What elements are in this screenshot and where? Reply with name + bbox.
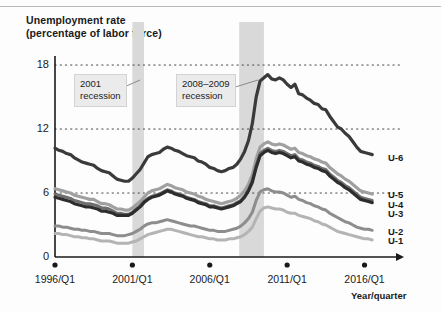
x-tick-dot (207, 262, 212, 267)
x-tick-label-1996/Q1: 1996/Q1 (20, 273, 90, 285)
series-line-u-3 (55, 150, 372, 215)
recession-band-recession-2008-2009 (239, 22, 264, 257)
y-tick-label-18: 18 (27, 58, 49, 70)
annotation-recession-2001: 2001 recession (74, 74, 127, 107)
x-tick-dot (52, 262, 57, 267)
x-tick-dot (362, 262, 367, 267)
x-tick-dot (285, 262, 290, 267)
series-label-u-6: U-6 (388, 152, 403, 163)
annotation-recession-2008-2009: 2008–2009 recession (176, 74, 236, 107)
annotation-line-1: 2008–2009 (182, 78, 230, 90)
series-label-u-1: U-1 (388, 235, 403, 246)
x-tick-label-2016/Q1: 2016/Q1 (330, 273, 400, 285)
y-tick-label-6: 6 (27, 186, 49, 198)
series-label-u-3: U-3 (388, 208, 403, 219)
annotation-line-1: 2001 (80, 78, 121, 90)
x-tick-label-2001/Q1: 2001/Q1 (97, 273, 167, 285)
plot-area (0, 0, 441, 312)
unemployment-rate-chart: Unemployment rate (percentage of labor f… (0, 0, 441, 312)
series-line-u-5 (55, 142, 372, 210)
plot-svg (0, 0, 441, 312)
x-axis-label: Year/quarter (351, 290, 406, 301)
annotation-line-2: recession (182, 90, 230, 102)
x-tick-label-2011/Q1: 2011/Q1 (252, 273, 322, 285)
x-tick-label-2006/Q1: 2006/Q1 (175, 273, 245, 285)
x-tick-dot (130, 262, 135, 267)
y-tick-label-12: 12 (27, 122, 49, 134)
x-axis-arrow-icon (396, 253, 404, 261)
recession-band-recession-2001 (132, 22, 144, 257)
y-tick-label-0: 0 (27, 250, 49, 262)
annotation-line-2: recession (80, 90, 121, 102)
